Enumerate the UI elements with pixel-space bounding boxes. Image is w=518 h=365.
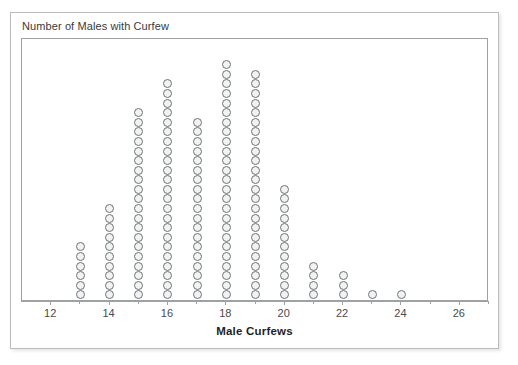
data-dot	[251, 89, 260, 98]
data-dot	[222, 127, 231, 136]
x-tick-minor	[430, 301, 431, 304]
x-axis-label: Male Curfews	[11, 325, 498, 337]
data-dot	[105, 204, 114, 213]
dot-column	[366, 290, 378, 300]
chart-card: Number of Males with Curfew Male Curfews…	[10, 12, 499, 349]
data-dot	[222, 89, 231, 98]
data-dot	[163, 242, 172, 251]
data-dot	[163, 185, 172, 194]
x-tick-major	[459, 301, 460, 305]
data-dot	[134, 281, 143, 290]
x-tick-label: 24	[394, 307, 406, 319]
data-dot	[193, 137, 202, 146]
x-tick-minor	[138, 301, 139, 304]
dot-column	[279, 185, 291, 300]
data-dot	[309, 262, 318, 271]
data-dot	[105, 223, 114, 232]
data-dot	[251, 281, 260, 290]
data-dot	[193, 147, 202, 156]
plot-frame	[21, 38, 488, 301]
x-tick-minor	[255, 301, 256, 304]
data-dot	[280, 214, 289, 223]
dot-column	[162, 79, 174, 300]
plot-area	[22, 39, 487, 300]
x-tick-major	[109, 301, 110, 305]
dot-column	[337, 271, 349, 300]
data-dot	[76, 271, 85, 280]
data-dot	[134, 147, 143, 156]
data-dot	[193, 223, 202, 232]
data-dot	[222, 194, 231, 203]
dot-column	[395, 290, 407, 300]
data-dot	[134, 108, 143, 117]
data-dot	[163, 127, 172, 136]
data-dot	[105, 214, 114, 223]
data-dot	[76, 242, 85, 251]
dot-column	[220, 60, 232, 300]
data-dot	[280, 194, 289, 203]
x-tick-label: 14	[102, 307, 114, 319]
data-dot	[222, 233, 231, 242]
data-dot	[251, 108, 260, 117]
data-dot	[134, 127, 143, 136]
data-dot	[134, 242, 143, 251]
data-dot	[163, 290, 172, 299]
data-dot	[251, 175, 260, 184]
data-dot	[280, 290, 289, 299]
x-tick-minor	[371, 301, 372, 304]
data-dot	[222, 262, 231, 271]
data-dot	[134, 233, 143, 242]
data-dot	[222, 271, 231, 280]
data-dot	[105, 233, 114, 242]
dot-column	[133, 108, 145, 300]
data-dot	[163, 166, 172, 175]
data-dot	[222, 99, 231, 108]
data-dot	[339, 281, 348, 290]
x-tick-label: 20	[278, 307, 290, 319]
data-dot	[251, 137, 260, 146]
data-dot	[134, 223, 143, 232]
x-tick-label: 12	[44, 307, 56, 319]
data-dot	[76, 290, 85, 299]
data-dot	[134, 156, 143, 165]
data-dot	[134, 214, 143, 223]
x-tick-label: 18	[219, 307, 231, 319]
data-dot	[309, 271, 318, 280]
data-dot	[309, 290, 318, 299]
data-dot	[193, 214, 202, 223]
data-dot	[105, 262, 114, 271]
data-dot	[193, 242, 202, 251]
data-dot	[280, 271, 289, 280]
data-dot	[222, 175, 231, 184]
data-dot	[163, 99, 172, 108]
data-dot	[193, 290, 202, 299]
data-dot	[134, 290, 143, 299]
data-dot	[163, 214, 172, 223]
data-dot	[163, 252, 172, 261]
data-dot	[134, 271, 143, 280]
x-tick-major	[284, 301, 285, 305]
data-dot	[105, 252, 114, 261]
data-dot	[222, 185, 231, 194]
data-dot	[280, 281, 289, 290]
data-dot	[280, 204, 289, 213]
x-tick-major	[400, 301, 401, 305]
data-dot	[222, 242, 231, 251]
data-dot	[163, 271, 172, 280]
data-dot	[105, 290, 114, 299]
data-dot	[163, 262, 172, 271]
x-tick-minor	[313, 301, 314, 304]
data-dot	[339, 290, 348, 299]
x-tick-minor	[488, 301, 489, 304]
data-dot	[134, 166, 143, 175]
data-dot	[280, 262, 289, 271]
data-dot	[280, 233, 289, 242]
data-dot	[251, 99, 260, 108]
data-dot	[222, 147, 231, 156]
data-dot	[222, 70, 231, 79]
chart-title: Number of Males with Curfew	[22, 20, 169, 32]
data-dot	[193, 166, 202, 175]
data-dot	[163, 79, 172, 88]
data-dot	[163, 108, 172, 117]
data-dot	[134, 185, 143, 194]
